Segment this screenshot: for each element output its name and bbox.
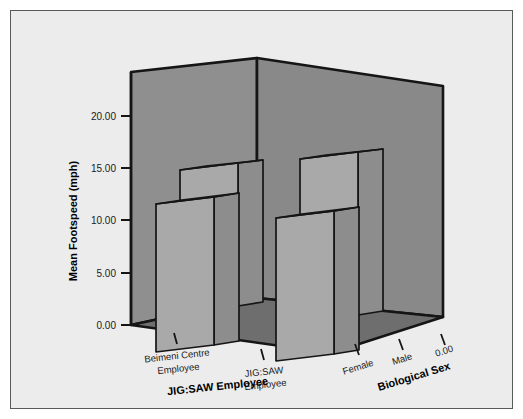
y-axis: 0.00 5.00 10.00 15.00 20.00 Mean Footspe…	[67, 72, 131, 331]
y-axis-title: Mean Footspeed (mph)	[67, 160, 79, 281]
z-tick-label-2: 0.00	[434, 343, 455, 359]
x-category-label-0-line-0: Beimeni Centre	[144, 347, 210, 365]
bar-side	[214, 193, 239, 345]
z-tick-label-1: Male	[391, 350, 414, 367]
chart-svg: 0.00 5.00 10.00 15.00 20.00 Mean Footspe…	[11, 11, 514, 410]
bar-front	[276, 211, 334, 361]
bar-beimeni-female[interactable]	[156, 193, 239, 352]
y-tick-label-0: 0.00	[97, 320, 117, 331]
bar-front	[156, 197, 214, 352]
screenshot-root: 0.00 5.00 10.00 15.00 20.00 Mean Footspe…	[0, 0, 523, 419]
z-tick-mark	[441, 334, 445, 345]
bar-jigsaw-female[interactable]	[276, 207, 359, 361]
x-tick-mark	[261, 349, 264, 360]
chart-canvas: 0.00 5.00 10.00 15.00 20.00 Mean Footspe…	[11, 11, 514, 410]
y-tick-label-2: 10.00	[91, 215, 116, 226]
bar-side	[334, 207, 359, 354]
bar-side	[238, 160, 263, 306]
z-tick-mark	[399, 339, 403, 350]
y-tick-label-1: 5.00	[97, 268, 117, 279]
x-category-label-0-line-1: Employee	[157, 361, 200, 376]
chart-frame: 0.00 5.00 10.00 15.00 20.00 Mean Footspe…	[10, 10, 513, 409]
y-tick-label-4: 20.00	[91, 111, 116, 122]
y-tick-label-3: 15.00	[91, 163, 116, 174]
z-axis-title: Biological Sex	[376, 359, 452, 393]
z-tick-label-0: Female	[341, 357, 375, 377]
bar-side	[358, 149, 383, 315]
x-axis-title: JIG:SAW Employee	[166, 375, 268, 398]
